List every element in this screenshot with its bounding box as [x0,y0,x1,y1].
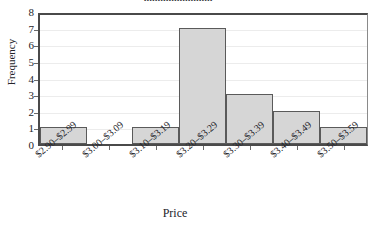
y-tick-mark-7 [34,30,38,31]
x-tick-mark-3 [203,146,204,150]
y-tick-mark-1 [34,129,38,130]
x-tick-mark-5 [297,146,298,150]
histogram-figure: ......................... Frequency 0123… [0,0,374,230]
y-tick-label-6: 6 [8,40,34,51]
x-axis-label: Price [135,206,215,221]
chart-title-clipped: ......................... [78,0,278,5]
y-tick-label-0: 0 [8,140,34,151]
y-tick-mark-6 [34,46,38,47]
x-tick-mark-4 [250,146,251,150]
y-tick-mark-3 [34,96,38,97]
y-tick-mark-2 [34,113,38,114]
y-tick-label-8: 8 [8,7,34,18]
x-tick-mark-6 [344,146,345,150]
x-tick-mark-2 [156,146,157,150]
x-tick-mark-0 [62,146,63,150]
y-tick-label-4: 4 [8,74,34,85]
y-tick-label-5: 5 [8,57,34,68]
y-tick-label-3: 3 [8,90,34,101]
y-tick-label-1: 1 [8,123,34,134]
x-tick-mark-1 [109,146,110,150]
y-tick-label-2: 2 [8,107,34,118]
y-tick-mark-4 [34,80,38,81]
y-tick-label-7: 7 [8,24,34,35]
y-tick-mark-5 [34,63,38,64]
chart-title-text: ......................... [78,0,278,3]
